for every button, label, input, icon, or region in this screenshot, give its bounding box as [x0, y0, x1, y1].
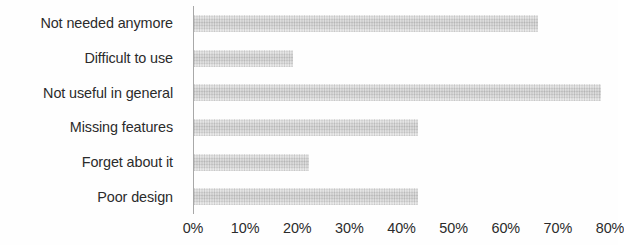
bar-row [194, 179, 611, 214]
value-axis-tick-label: 50% [439, 220, 468, 236]
category-label: Forget about it [82, 154, 173, 170]
bar [194, 119, 418, 136]
value-axis-tick-label: 20% [283, 220, 312, 236]
plot-area [193, 6, 611, 214]
value-axis-tick-label: 80% [596, 220, 624, 236]
category-label: Difficult to use [84, 50, 173, 66]
category-label-row: Not needed anymore [0, 6, 182, 41]
bar-row [194, 145, 611, 180]
category-axis: Not needed anymore Difficult to use Not … [0, 6, 182, 214]
bar-row [194, 41, 611, 76]
bar [194, 50, 293, 67]
category-label-row: Poor design [0, 179, 182, 214]
value-axis-tick-label: 10% [231, 220, 260, 236]
category-label: Poor design [97, 189, 173, 205]
value-axis-tick-label: 60% [491, 220, 520, 236]
category-label: Not useful in general [43, 85, 173, 101]
value-axis-tick-label: 40% [387, 220, 416, 236]
value-axis: 0%10%20%30%40%50%60%70%80% [193, 214, 618, 245]
category-label-row: Missing features [0, 110, 182, 145]
bar [194, 84, 601, 101]
value-axis-tick-label: 30% [335, 220, 364, 236]
category-label-row: Not useful in general [0, 75, 182, 110]
category-label-row: Forget about it [0, 145, 182, 180]
bar-row [194, 110, 611, 145]
bar-row [194, 75, 611, 110]
bar [194, 154, 309, 171]
bar-row [194, 6, 611, 41]
bar [194, 15, 538, 32]
category-label: Not needed anymore [40, 15, 173, 31]
category-label: Missing features [70, 119, 173, 135]
value-axis-tick-label: 70% [544, 220, 573, 236]
bar [194, 188, 418, 205]
bar-series [194, 6, 611, 214]
category-label-row: Difficult to use [0, 41, 182, 76]
value-axis-tick-label: 0% [183, 220, 204, 236]
